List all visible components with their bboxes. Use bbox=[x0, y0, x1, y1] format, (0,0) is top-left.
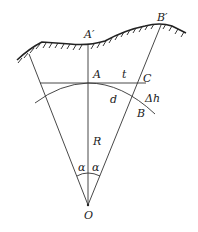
ground-surface bbox=[17, 24, 186, 60]
left-radial-line bbox=[29, 54, 88, 205]
label-C: C bbox=[143, 72, 152, 85]
label-t: t bbox=[122, 68, 127, 81]
label-A: A bbox=[92, 68, 101, 81]
label-O: O bbox=[84, 209, 93, 222]
earth-curvature-diagram: A′ B′ A t C d Δh B R α α O bbox=[0, 0, 198, 232]
label-R: R bbox=[92, 135, 101, 148]
label-alpha-left: α bbox=[78, 161, 86, 174]
label-alpha-right: α bbox=[92, 161, 100, 174]
right-radial-line bbox=[88, 25, 161, 205]
center-point-O bbox=[87, 204, 89, 206]
label-B-prime: B′ bbox=[156, 11, 168, 24]
label-delta-h: Δh bbox=[144, 92, 160, 105]
label-A-prime: A′ bbox=[83, 28, 95, 41]
label-d: d bbox=[110, 93, 117, 106]
label-B: B bbox=[136, 107, 145, 120]
